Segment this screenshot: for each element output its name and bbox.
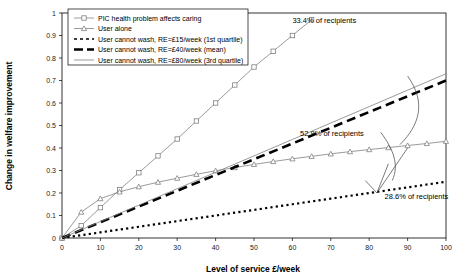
y-tick-label: 1: [52, 10, 56, 17]
leader-line: [365, 181, 377, 193]
series-marker: [213, 101, 217, 105]
annotation-label: 33.4% of recipients: [292, 16, 356, 25]
y-tick-label: 0.4: [46, 145, 56, 152]
legend-label: User cannot wash, RE=£40/week (mean): [98, 46, 226, 54]
x-tick-label: 80: [365, 244, 373, 251]
series-marker: [79, 223, 83, 227]
x-tick-label: 100: [440, 244, 452, 251]
welfare-improvement-chart: 010203040506070809010000.10.20.30.40.50.…: [0, 0, 466, 277]
series-line-4: [62, 74, 446, 238]
legend-label: User alone: [98, 25, 132, 32]
series-marker: [156, 154, 160, 158]
legend-label: User cannot wash, RE=£80/week (3rd quart…: [98, 57, 243, 65]
series-marker: [175, 137, 179, 141]
series-marker: [290, 33, 294, 37]
legend-label: User cannot wash, RE=£15/week (1st quart…: [98, 36, 243, 44]
y-tick-label: 0: [52, 235, 56, 242]
x-tick-label: 0: [60, 244, 64, 251]
series-marker: [98, 205, 102, 209]
series-marker: [271, 49, 275, 53]
series-marker: [443, 139, 448, 144]
leader-line: [377, 148, 408, 193]
x-tick-label: 40: [212, 244, 220, 251]
y-tick-label: 0.6: [46, 100, 56, 107]
x-tick-label: 20: [135, 244, 143, 251]
x-tick-label: 90: [404, 244, 412, 251]
chart-canvas: 010203040506070809010000.10.20.30.40.50.…: [0, 0, 466, 277]
series-marker: [252, 65, 256, 69]
annotation-label: 28.6% of recipients: [385, 192, 449, 201]
x-tick-label: 70: [327, 244, 335, 251]
y-tick-label: 0.9: [46, 32, 56, 39]
series-marker: [233, 83, 237, 87]
legend-label: PIC health problem affects caring: [98, 15, 201, 23]
y-tick-label: 0.8: [46, 55, 56, 62]
x-tick-label: 50: [250, 244, 258, 251]
series-line-3: [62, 81, 446, 239]
annotations-layer: 33.4% of recipients52.9% of recipients28…: [292, 16, 448, 201]
y-tick-label: 0.1: [46, 212, 56, 219]
y-axis-title: Change in welfare improvement: [4, 62, 14, 191]
leader-line: [381, 132, 396, 180]
annotation-label: 52.9% of recipients: [300, 129, 364, 138]
y-tick-label: 0.5: [46, 122, 56, 129]
series-marker: [137, 171, 141, 175]
x-tick-label: 60: [289, 244, 297, 251]
y-tick-label: 0.3: [46, 167, 56, 174]
y-tick-label: 0.2: [46, 190, 56, 197]
chart-legend: PIC health problem affects caringUser al…: [68, 9, 248, 65]
legend-marker: [82, 16, 86, 20]
x-axis-title: Level of service £/week: [206, 264, 300, 274]
y-tick-label: 0.7: [46, 77, 56, 84]
x-tick-label: 10: [97, 244, 105, 251]
series-marker: [194, 119, 198, 123]
series-marker: [79, 210, 84, 215]
x-tick-label: 30: [173, 244, 181, 251]
